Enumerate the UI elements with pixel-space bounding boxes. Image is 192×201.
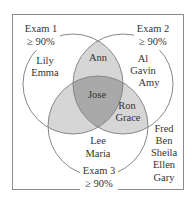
set-threshold-exam2: ≥ 90% bbox=[139, 36, 167, 47]
name-none: Sheila bbox=[151, 147, 178, 158]
name-none: Gary bbox=[154, 172, 176, 183]
venn-diagram: Exam 1 ≥ 90% Exam 2 ≥ 90% Exam 3 ≥ 90% L… bbox=[0, 0, 192, 201]
set-label-exam1: Exam 1 bbox=[25, 23, 57, 34]
set-label-exam2: Exam 2 bbox=[137, 23, 169, 34]
name-only-exam1: Lily bbox=[36, 55, 54, 66]
set-threshold-exam3: ≥ 90% bbox=[85, 178, 113, 189]
name-exam2-exam3: Ron bbox=[118, 100, 136, 111]
set-threshold-exam1: ≥ 90% bbox=[27, 36, 55, 47]
name-only-exam2: Amy bbox=[139, 77, 161, 88]
name-none: Ellen bbox=[153, 159, 176, 170]
name-only-exam1: Emma bbox=[31, 67, 59, 78]
name-only-exam2: Al bbox=[138, 53, 149, 64]
name-exam2-exam3: Grace bbox=[115, 112, 140, 123]
name-none: Ben bbox=[156, 135, 174, 146]
name-all-three: Jose bbox=[88, 89, 106, 100]
set-label-exam3: Exam 3 bbox=[83, 165, 115, 176]
name-only-exam3: Lee bbox=[90, 135, 106, 146]
name-exam1-exam2: Ann bbox=[89, 52, 108, 63]
name-only-exam2: Gavin bbox=[130, 65, 156, 76]
name-only-exam3: Maria bbox=[85, 148, 110, 159]
name-none: Fred bbox=[154, 123, 174, 134]
